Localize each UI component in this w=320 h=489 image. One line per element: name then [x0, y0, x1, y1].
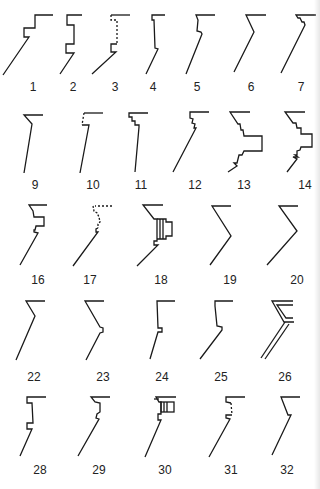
- label-24: 24: [147, 370, 177, 384]
- label-31: 31: [216, 463, 246, 477]
- label-22: 22: [19, 370, 49, 384]
- label-18: 18: [146, 273, 176, 287]
- label-28: 28: [25, 463, 55, 477]
- profile-diagram: 1 2 3 4 5 6 7 9 10 11 12 13 14 16 17 18 …: [0, 0, 320, 489]
- label-2: 2: [58, 80, 88, 94]
- label-16: 16: [23, 273, 53, 287]
- label-11: 11: [126, 178, 156, 192]
- label-1: 1: [18, 80, 48, 94]
- label-4: 4: [138, 80, 168, 94]
- label-20: 20: [282, 273, 312, 287]
- label-30: 30: [150, 463, 180, 477]
- label-10: 10: [78, 178, 108, 192]
- label-25: 25: [206, 370, 236, 384]
- profile-32-drawing: [0, 0, 320, 489]
- label-26: 26: [270, 370, 300, 384]
- label-13: 13: [229, 178, 259, 192]
- profile-32: [0, 0, 320, 489]
- label-23: 23: [88, 370, 118, 384]
- label-3: 3: [100, 80, 130, 94]
- label-12: 12: [180, 178, 210, 192]
- label-32: 32: [272, 463, 302, 477]
- label-17: 17: [75, 273, 105, 287]
- label-9: 9: [20, 178, 50, 192]
- page-edge-shadow: [314, 0, 320, 489]
- label-7: 7: [286, 80, 316, 94]
- label-5: 5: [182, 80, 212, 94]
- label-19: 19: [215, 273, 245, 287]
- label-6: 6: [236, 80, 266, 94]
- label-29: 29: [84, 463, 114, 477]
